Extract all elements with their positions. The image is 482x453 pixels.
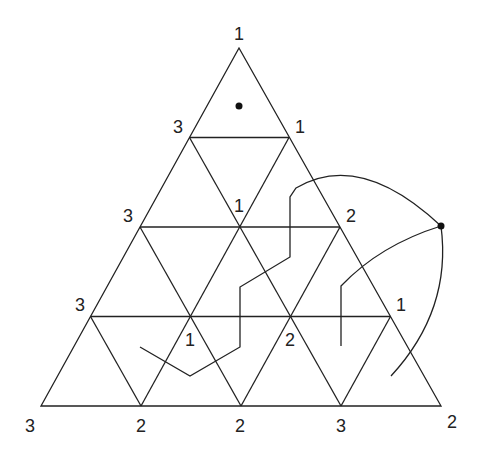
label-r3-left: 3 — [75, 295, 85, 315]
label-base-0: 3 — [25, 416, 35, 436]
label-base-3: 3 — [336, 416, 346, 436]
label-apex: 1 — [234, 24, 244, 44]
grid-diag-a-3 — [91, 317, 142, 407]
label-base-4: 2 — [447, 412, 457, 432]
label-r1-right: 1 — [295, 117, 305, 137]
label-base-1: 2 — [136, 416, 146, 436]
label-r1-left: 3 — [173, 117, 183, 137]
grid-diag-b-3 — [341, 317, 391, 407]
label-r3-center-right: 2 — [285, 330, 295, 350]
label-base-2: 2 — [235, 416, 245, 436]
grid-diag-b-1 — [141, 138, 289, 407]
right-inner-path — [341, 226, 441, 346]
label-r2-center: 1 — [234, 196, 244, 216]
label-r2-right: 2 — [346, 206, 356, 226]
label-r2-left: 3 — [123, 206, 133, 226]
triangle-diagram: 1 3 1 3 1 2 3 1 2 1 3 2 2 3 2 — [0, 0, 482, 453]
label-r3-center-left: 1 — [185, 330, 195, 350]
dots — [236, 103, 445, 230]
triangle-grid — [41, 48, 441, 406]
top-cell-dot — [236, 103, 243, 110]
outside-dot — [438, 223, 445, 230]
label-r3-right: 1 — [396, 295, 406, 315]
